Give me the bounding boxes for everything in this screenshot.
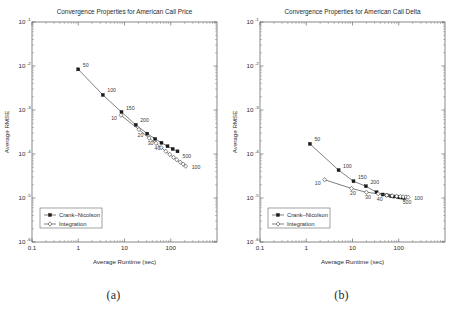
x-tick-label: 10	[349, 244, 356, 251]
data-point	[160, 141, 163, 144]
data-point	[146, 132, 149, 135]
y-tick-label: 10	[247, 194, 254, 201]
y-tick-label: 10	[19, 106, 26, 113]
series-1: 50100150200500	[77, 62, 192, 159]
subcaption-b: (b)	[228, 288, 455, 303]
chart-legend[interactable]: Crank–NicolsonIntegration	[40, 208, 102, 228]
point-label: 20	[350, 190, 356, 196]
x-tick-label: 10	[121, 244, 128, 251]
y-tick-exponent: -4	[255, 149, 259, 154]
y-tick-label: 10	[19, 150, 26, 157]
point-label: 30	[365, 194, 371, 200]
y-tick-label: 10	[247, 238, 254, 245]
point-label: 200	[370, 179, 379, 185]
x-tick-label: 100	[394, 244, 405, 251]
data-point	[352, 180, 355, 183]
point-label: 100	[192, 164, 201, 170]
x-tick-label: 0.1	[256, 244, 265, 251]
x-tick-label: 1	[305, 244, 309, 251]
y-tick-label: 10	[19, 18, 26, 25]
point-label: 20	[138, 132, 144, 138]
chart-panel-b: Convergence Properties for American Call…	[228, 0, 455, 314]
y-tick-exponent: -3	[255, 105, 259, 110]
series-2: 10203040100	[315, 178, 423, 202]
data-point	[337, 169, 340, 172]
data-point	[172, 155, 176, 159]
chart-panel-a: Convergence Properties for American Call…	[0, 0, 227, 314]
data-point	[77, 68, 80, 71]
legend-marker	[277, 214, 280, 217]
y-tick-exponent: -1	[255, 17, 259, 22]
legend-label: Crank–Nicolson	[287, 212, 328, 218]
y-tick-label: 10	[19, 238, 26, 245]
y-tick-exponent: -2	[27, 61, 31, 66]
y-tick-exponent: -6	[255, 237, 259, 242]
data-point	[171, 147, 174, 150]
point-label: 40	[377, 196, 383, 202]
y-tick-label: 10	[19, 194, 26, 201]
y-tick-label: 10	[247, 150, 254, 157]
point-label: 100	[107, 87, 116, 93]
data-point	[166, 145, 169, 148]
y-tick-exponent: -1	[27, 17, 31, 22]
point-label: 500	[183, 153, 192, 159]
data-point	[175, 158, 179, 162]
y-tick-exponent: -3	[27, 105, 31, 110]
point-label: 50	[83, 62, 89, 68]
y-tick-label: 10	[247, 106, 254, 113]
point-label: 200	[140, 117, 149, 123]
x-tick-label: 100	[166, 244, 177, 251]
chart-title: Convergence Properties for American Call…	[284, 8, 420, 16]
y-tick-exponent: -2	[255, 61, 259, 66]
point-label: 500	[403, 199, 412, 205]
point-label: 150	[126, 105, 135, 111]
y-axis-label: Average RMSE	[231, 111, 238, 154]
point-label: 150	[358, 174, 367, 180]
y-tick-exponent: -4	[27, 149, 31, 154]
convergence-call-delta-chart: Convergence Properties for American Call…	[228, 0, 455, 290]
point-label: 100	[343, 163, 352, 169]
data-point	[168, 152, 172, 156]
data-point	[164, 149, 168, 153]
y-tick-label: 10	[19, 62, 26, 69]
chart-legend[interactable]: Crank–NicolsonIntegration	[268, 208, 330, 228]
y-tick-exponent: -6	[27, 237, 31, 242]
figure-container: Convergence Properties for American Call…	[0, 0, 455, 314]
legend-label: Integration	[59, 221, 86, 227]
point-label: 40	[155, 145, 161, 151]
y-tick-label: 10	[247, 62, 254, 69]
point-label: 50	[314, 136, 320, 142]
legend-marker	[49, 214, 52, 217]
data-point	[154, 137, 157, 140]
point-label: 100	[414, 195, 423, 201]
chart-title: Convergence Properties for American Call…	[57, 8, 193, 16]
point-label: 10	[111, 115, 117, 121]
legend-label: Integration	[287, 221, 314, 227]
y-axis-label: Average RMSE	[3, 111, 10, 154]
y-tick-exponent: -5	[27, 193, 31, 198]
series-2: 10203040100	[111, 113, 200, 170]
data-point	[308, 142, 311, 145]
data-point	[364, 185, 367, 188]
x-tick-label: 1	[77, 244, 81, 251]
data-point	[120, 111, 123, 114]
data-point	[176, 150, 179, 153]
x-axis-label: Average Runtime (sec)	[93, 258, 156, 265]
convergence-call-price-chart: Convergence Properties for American Call…	[0, 0, 227, 290]
x-tick-label: 0.1	[28, 244, 37, 251]
x-axis-label: Average Runtime (sec)	[321, 258, 384, 265]
point-label: 30	[148, 140, 154, 146]
legend-label: Crank–Nicolson	[59, 212, 100, 218]
subcaption-a: (a)	[0, 288, 227, 303]
data-point	[323, 178, 327, 182]
y-tick-label: 10	[247, 18, 254, 25]
point-label: 10	[315, 180, 321, 186]
data-point	[101, 93, 104, 96]
y-tick-exponent: -5	[255, 193, 259, 198]
